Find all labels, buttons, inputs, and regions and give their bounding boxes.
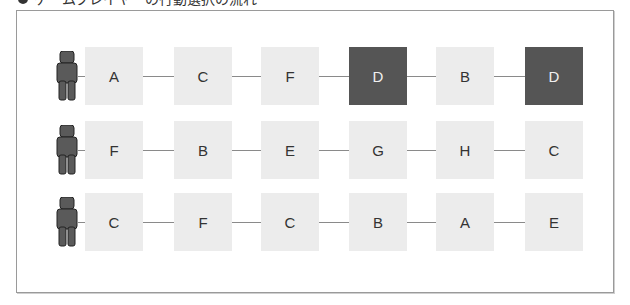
action-box: E — [525, 193, 583, 251]
bullet-icon — [18, 0, 28, 4]
action-label: F — [198, 214, 207, 231]
action-box: G — [349, 121, 407, 179]
figure-title: ゲームプレイヤーの行動選択の流れ — [0, 0, 630, 6]
action-label: G — [372, 142, 384, 159]
action-label: E — [285, 142, 295, 159]
action-label: D — [549, 68, 560, 85]
connector-line — [78, 150, 85, 151]
sequence-row: FBEGHC — [17, 121, 613, 179]
action-label: H — [460, 142, 471, 159]
connector-line — [407, 150, 436, 151]
connector-line — [143, 150, 174, 151]
action-box: A — [436, 193, 494, 251]
connector-line — [494, 222, 525, 223]
connector-line — [143, 76, 174, 77]
sequence-row: ACFDBD — [17, 47, 613, 105]
action-box-highlighted: D — [525, 47, 583, 105]
action-box: C — [174, 47, 232, 105]
action-box: C — [85, 193, 143, 251]
action-box: C — [261, 193, 319, 251]
person-icon — [56, 197, 78, 247]
action-box: H — [436, 121, 494, 179]
connector-line — [143, 222, 174, 223]
person-icon — [56, 125, 78, 175]
action-label: B — [460, 68, 470, 85]
action-box: A — [85, 47, 143, 105]
action-label: C — [549, 142, 560, 159]
action-label: D — [373, 68, 384, 85]
connector-line — [319, 222, 349, 223]
action-box: B — [174, 121, 232, 179]
action-label: A — [109, 68, 119, 85]
connector-line — [78, 76, 85, 77]
connector-line — [494, 76, 525, 77]
action-box: F — [261, 47, 319, 105]
action-label: F — [109, 142, 118, 159]
action-label: E — [549, 214, 559, 231]
diagram-frame: ACFDBDFBEGHCCFCBAE — [16, 10, 614, 293]
connector-line — [319, 76, 349, 77]
action-label: B — [373, 214, 383, 231]
action-label: F — [285, 68, 294, 85]
person-icon — [56, 51, 78, 101]
action-box: E — [261, 121, 319, 179]
action-label: A — [460, 214, 470, 231]
action-box: B — [349, 193, 407, 251]
action-label: C — [109, 214, 120, 231]
action-box: F — [85, 121, 143, 179]
action-box: F — [174, 193, 232, 251]
connector-line — [78, 222, 85, 223]
connector-line — [319, 150, 349, 151]
connector-line — [407, 76, 436, 77]
action-box: B — [436, 47, 494, 105]
connector-line — [494, 150, 525, 151]
action-label: C — [198, 68, 209, 85]
action-label: B — [198, 142, 208, 159]
figure-title-text: ゲームプレイヤーの行動選択の流れ — [34, 0, 257, 6]
action-box-highlighted: D — [349, 47, 407, 105]
connector-line — [232, 150, 261, 151]
action-box: C — [525, 121, 583, 179]
action-label: C — [285, 214, 296, 231]
connector-line — [407, 222, 436, 223]
sequence-row: CFCBAE — [17, 193, 613, 251]
connector-line — [232, 76, 261, 77]
connector-line — [232, 222, 261, 223]
